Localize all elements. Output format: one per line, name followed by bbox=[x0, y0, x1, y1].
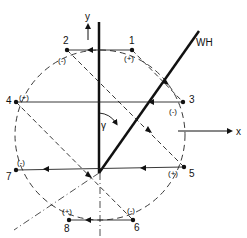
point-7-sign: (-) bbox=[17, 158, 25, 167]
point-5-sign: (+) bbox=[168, 169, 178, 178]
diag-1-3 bbox=[132, 50, 183, 102]
point-8-label: 8 bbox=[64, 223, 70, 234]
point-6-sign: (-) bbox=[127, 206, 135, 215]
y-axis-label: y bbox=[85, 11, 90, 22]
point-3-label: 3 bbox=[189, 94, 195, 105]
gamma-label: γ bbox=[101, 120, 106, 131]
diag-4-6 bbox=[16, 102, 133, 220]
point-1-label: 1 bbox=[129, 35, 135, 46]
point-2-sign: (-) bbox=[58, 56, 66, 65]
point-2-label: 2 bbox=[63, 35, 69, 46]
point-5-label: 5 bbox=[189, 168, 195, 179]
dashdot-diagonal bbox=[14, 173, 99, 230]
wh-label: WH bbox=[196, 37, 213, 48]
point-4-sign: (+) bbox=[19, 93, 29, 102]
point-8-sign: (+) bbox=[62, 207, 72, 216]
x-axis-label: x bbox=[236, 126, 241, 137]
point-1-sign: (+) bbox=[124, 54, 134, 63]
circle-path-diagram: y WH γ x 1 (+) 2 (-) 3 (-) 4 (+) 5 (+) bbox=[0, 0, 247, 238]
point-4-label: 4 bbox=[6, 95, 12, 106]
point-6-label: 6 bbox=[134, 222, 140, 233]
point-7-label: 7 bbox=[6, 171, 12, 182]
diag-2-5 bbox=[67, 50, 184, 167]
point-3-sign: (-) bbox=[169, 107, 177, 116]
